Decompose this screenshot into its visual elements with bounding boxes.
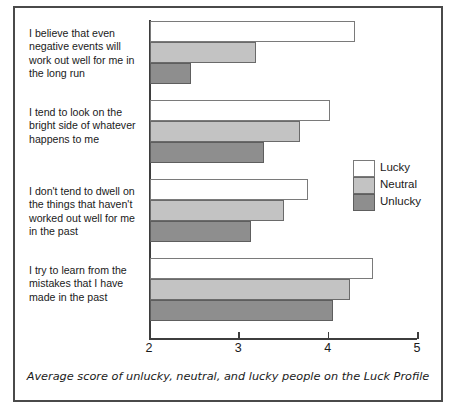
bar-group-label: I don't tend to dwell on the things that… [29, 185, 145, 239]
legend-label-unlucky: Unlucky [380, 195, 421, 207]
bar-neutral [150, 42, 256, 63]
bar-lucky [150, 179, 308, 200]
x-axis-tick-label: 4 [313, 341, 343, 355]
bar-unlucky [150, 300, 333, 321]
bar-neutral [150, 200, 284, 221]
bar-lucky [150, 21, 355, 42]
x-axis-tick-label: 2 [134, 341, 164, 355]
legend-swatch-lucky [353, 160, 375, 177]
bar-neutral [150, 279, 350, 300]
legend-row: Unlucky [353, 194, 439, 211]
legend-label-neutral: Neutral [380, 178, 417, 190]
x-axis-tick [328, 332, 330, 339]
chart-legend: LuckyNeutralUnlucky [353, 160, 439, 211]
bar-group-label: I tend to look on the bright side of wha… [29, 106, 145, 146]
x-axis-tick-label: 3 [223, 341, 253, 355]
x-axis-tick [238, 332, 240, 339]
figure-caption: Average score of unlucky, neutral, and l… [15, 370, 441, 383]
bar-group-label: I try to learn from the mistakes that I … [29, 264, 145, 304]
bar-unlucky [150, 221, 251, 242]
bar-neutral [150, 121, 300, 142]
bar-group: I try to learn from the mistakes that I … [15, 258, 443, 335]
x-axis-tick [149, 332, 151, 339]
bar-group-label: I believe that even negative events will… [29, 27, 145, 81]
bar-unlucky [150, 142, 264, 163]
bar-group: I believe that even negative events will… [15, 21, 443, 98]
bar-unlucky [150, 63, 191, 84]
bar-lucky [150, 258, 373, 279]
x-axis-tick-label: 5 [402, 341, 432, 355]
x-axis-tick [417, 332, 419, 339]
bar-lucky [150, 100, 330, 121]
legend-swatch-unlucky [353, 194, 375, 211]
legend-label-lucky: Lucky [380, 161, 410, 173]
legend-swatch-neutral [353, 177, 375, 194]
legend-row: Neutral [353, 177, 439, 194]
x-axis-line [149, 338, 417, 340]
legend-row: Lucky [353, 160, 439, 177]
figure-frame: I believe that even negative events will… [13, 6, 443, 402]
chart-plot-area: I believe that even negative events will… [15, 8, 443, 356]
